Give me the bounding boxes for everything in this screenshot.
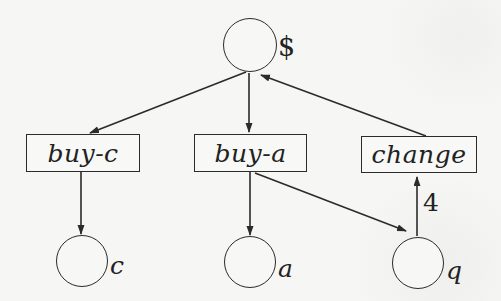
transition-change-label: change [372, 140, 467, 169]
place-c [56, 235, 108, 287]
edge-weight-label: 4 [423, 190, 439, 215]
edge-dollar-to-buy-c [90, 72, 246, 133]
edge-change-to-dollar [261, 75, 426, 136]
transition-buy-c-label: buy-c [47, 139, 118, 168]
transition-buy-c: buy-c [26, 134, 140, 172]
place-dollar [223, 18, 277, 72]
edge-buy-a-to-q [255, 173, 406, 231]
place-dollar-label: $ [278, 33, 295, 60]
place-a [224, 236, 276, 288]
transition-buy-a-label: buy-a [214, 139, 286, 168]
place-q [392, 237, 444, 289]
place-a-label: a [278, 256, 293, 281]
transition-buy-a: buy-a [194, 134, 307, 172]
petri-net-diagram: buy-c buy-a change $ c a q 4 [0, 0, 501, 301]
transition-change: change [361, 136, 477, 173]
place-q-label: q [446, 258, 462, 283]
place-c-label: c [110, 253, 124, 278]
